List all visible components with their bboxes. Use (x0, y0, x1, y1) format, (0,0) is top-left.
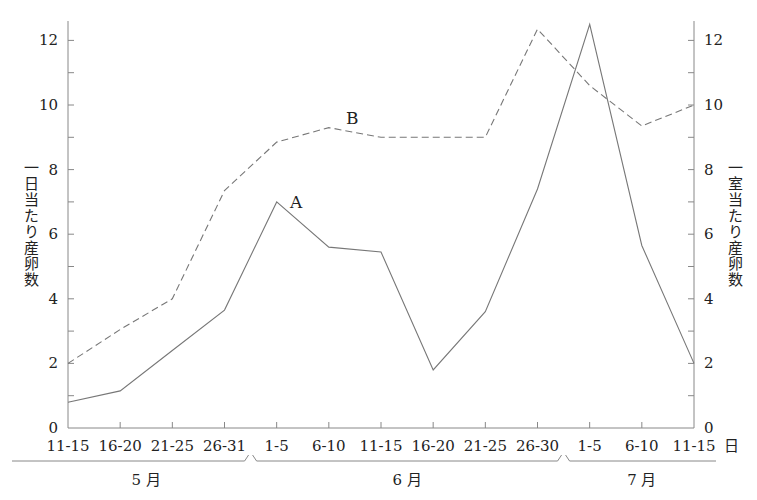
y-tick-label-left: 12 (39, 31, 58, 49)
y-tick-label-right: 8 (704, 161, 714, 179)
y-tick-label-right: 6 (704, 225, 714, 243)
y-axis-label-right: 一室当たり産卵数 (724, 160, 745, 288)
x-tick-label: 1-5 (265, 437, 289, 455)
month-label: 6 月 (392, 471, 421, 489)
y-tick-label-right: 12 (704, 31, 723, 49)
y-tick-label-right: 4 (704, 290, 714, 308)
x-tick-label: 6-10 (312, 437, 346, 455)
x-tick-label: 26-31 (203, 437, 246, 455)
x-tick-label: 6-10 (625, 437, 659, 455)
line-chart: 00224466881010121211-1516-2021-2526-311-… (0, 0, 757, 500)
x-tick-label: 26-30 (516, 437, 559, 455)
month-label: 5 月 (132, 471, 161, 489)
month-brace (253, 455, 562, 461)
y-tick-label-right: 0 (704, 419, 714, 437)
y-tick-label-right: 2 (704, 354, 714, 372)
y-tick-label-left: 8 (48, 161, 58, 179)
y-tick-label-left: 0 (48, 419, 58, 437)
series-line-b (68, 29, 694, 363)
x-tick-label: 11-15 (672, 437, 715, 455)
series-label-b: B (346, 108, 359, 128)
x-unit-label: 日 (724, 437, 739, 455)
y-tick-label-left: 6 (48, 225, 58, 243)
x-tick-label: 16-20 (412, 437, 455, 455)
x-tick-label: 11-15 (359, 437, 402, 455)
series-line-a (68, 24, 694, 402)
y-tick-label-left: 2 (48, 354, 58, 372)
month-brace (12, 455, 249, 461)
y-tick-label-left: 10 (39, 96, 58, 114)
month-label: 7 月 (627, 471, 656, 489)
x-tick-label: 11-15 (46, 437, 89, 455)
x-tick-label: 21-25 (464, 437, 507, 455)
y-axis-label-left: 一日当たり産卵数 (20, 160, 41, 288)
x-tick-label: 16-20 (99, 437, 142, 455)
x-tick-label: 21-25 (151, 437, 194, 455)
series-label-a: A (289, 192, 303, 212)
x-tick-label: 1-5 (578, 437, 602, 455)
y-tick-label-left: 4 (48, 290, 58, 308)
y-tick-label-right: 10 (704, 96, 723, 114)
month-brace (566, 455, 716, 461)
